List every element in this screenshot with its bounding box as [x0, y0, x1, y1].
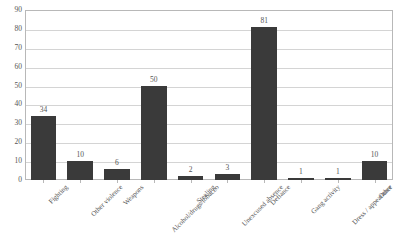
bar-value-label: 34 [31, 106, 57, 114]
gridline [26, 68, 392, 69]
x-axis-tick [80, 180, 81, 183]
bar-value-label: 2 [178, 166, 204, 174]
x-axis-tick [117, 180, 118, 183]
bar-chart: 9080706050403020100 341065023811110 Figh… [0, 0, 403, 246]
bar-value-label: 1 [325, 168, 351, 176]
x-axis-tick [43, 180, 44, 183]
gridline [26, 49, 392, 50]
y-axis-tick-label: 30 [2, 119, 22, 127]
bar [362, 161, 388, 180]
x-axis-category-label: Gang activity [310, 184, 342, 216]
y-axis-tick-label: 60 [2, 63, 22, 71]
y-axis-tick-label: 40 [2, 100, 22, 108]
y-axis-tick-label: 50 [2, 82, 22, 90]
bar-value-label: 10 [362, 151, 388, 159]
x-axis-category-label: Defiance [270, 184, 293, 207]
x-axis-tick [154, 180, 155, 183]
bar [67, 161, 93, 180]
gridline [26, 105, 392, 106]
x-axis-category-label: Other violence [90, 184, 124, 218]
chart-title [0, 0, 403, 4]
x-axis-category-label: Fighting [48, 184, 70, 206]
x-axis-tick [264, 180, 265, 183]
x-axis-tick [338, 180, 339, 183]
bar-value-label: 6 [104, 159, 130, 167]
y-axis-tick-label: 70 [2, 44, 22, 52]
x-axis-tick [227, 180, 228, 183]
bar [141, 86, 167, 180]
y-axis-tick-label: 10 [2, 157, 22, 165]
bar [31, 116, 57, 180]
y-axis-tick-label: 90 [2, 6, 22, 14]
bar-value-label: 10 [67, 151, 93, 159]
bar-value-label: 3 [215, 164, 241, 172]
x-axis-category-label: Weapons [122, 184, 145, 207]
x-axis-category-label: Other [377, 184, 393, 200]
gridline [26, 143, 392, 144]
bar-value-label: 1 [288, 168, 314, 176]
x-axis-tick [191, 180, 192, 183]
gridline [26, 87, 392, 88]
y-axis-tick-label: 80 [2, 25, 22, 33]
bar [251, 27, 277, 180]
bar-value-label: 81 [251, 17, 277, 25]
bar [104, 169, 130, 180]
x-axis-tick [375, 180, 376, 183]
bar-value-label: 50 [141, 76, 167, 84]
gridline [26, 124, 392, 125]
x-axis-tick [301, 180, 302, 183]
gridline [26, 30, 392, 31]
y-axis-tick-label: 20 [2, 138, 22, 146]
y-axis-tick-label: 0 [2, 176, 22, 184]
